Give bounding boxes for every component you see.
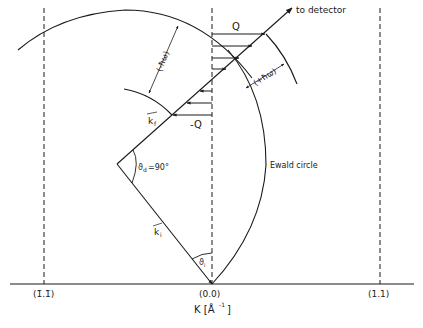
ki-vector <box>117 164 212 284</box>
inner-arc <box>124 89 172 115</box>
svg-text:i: i <box>160 231 162 238</box>
svg-text:K [Å: K [Å <box>194 303 215 315</box>
minus-hw-label: (-ħω) <box>155 50 171 73</box>
svg-text:f: f <box>154 120 157 127</box>
theta-d-label: ϑ d =90° <box>138 163 169 173</box>
svg-text:(+ħω): (+ħω) <box>252 67 278 88</box>
minus-q-label: -Q <box>190 119 202 130</box>
theta-d-angle-arc <box>132 150 136 183</box>
tick-label-0-0: (0.0) <box>199 289 220 299</box>
tick-label-minus-1-1: (1̄.1̄) <box>33 289 54 299</box>
outer-arc-minus-hw <box>18 10 252 78</box>
kf-label: k f <box>147 112 157 127</box>
svg-text:d: d <box>143 166 147 173</box>
svg-text:-1: -1 <box>219 301 225 308</box>
k-axis-label: K [Å -1 ] <box>194 301 231 315</box>
ewald-diagram: to detector Q -Q (-ħω) (+ħω) k f k i ϑ d… <box>0 0 423 328</box>
plus-hw-label: (+ħω) <box>252 67 278 88</box>
theta-i-label: ϑ i <box>199 258 205 268</box>
to-detector-label: to detector <box>296 5 346 15</box>
svg-text:(-ħω): (-ħω) <box>155 50 171 73</box>
svg-text:=90°: =90° <box>148 163 169 172</box>
tick-label-1-1: (1.1) <box>368 289 389 299</box>
q-label: Q <box>232 21 240 32</box>
kf-vector <box>117 8 292 164</box>
svg-text:i: i <box>204 262 205 268</box>
ewald-circle-label: Ewald circle <box>270 161 318 170</box>
svg-text:]: ] <box>227 304 231 315</box>
ki-label: k i <box>153 223 162 238</box>
